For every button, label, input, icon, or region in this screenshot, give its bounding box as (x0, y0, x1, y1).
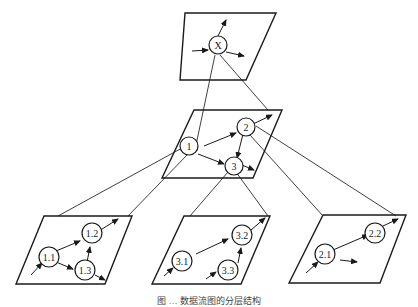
svg-text:1.3: 1.3 (79, 265, 92, 276)
node-1-2: 1.2 (82, 223, 102, 243)
node-3: 3 (225, 157, 243, 175)
node-1: 1 (180, 137, 198, 155)
node-1-3: 1.3 (75, 260, 95, 280)
svg-text:3.2: 3.2 (236, 230, 249, 241)
svg-text:2.2: 2.2 (369, 228, 382, 239)
svg-text:X: X (214, 40, 222, 51)
middle-level-plane: 1 2 3 (162, 110, 282, 178)
svg-text:3.1: 3.1 (176, 256, 189, 267)
node-3-1: 3.1 (172, 251, 192, 271)
node-2-1: 2.1 (315, 244, 335, 264)
node-x: X (209, 36, 227, 54)
subplane-2: 2.1 2.2 (289, 215, 406, 283)
node-2: 2 (237, 118, 255, 136)
subplane-3: 3.1 3.2 3.3 (152, 216, 270, 284)
top-level-plane: X (180, 13, 276, 80)
level-connectors (58, 55, 396, 216)
svg-text:3.3: 3.3 (222, 265, 235, 276)
svg-text:1.1: 1.1 (43, 252, 56, 263)
node-1-1: 1.1 (39, 247, 59, 267)
node-3-3: 3.3 (218, 260, 238, 280)
subplane-1: 1.1 1.2 1.3 (16, 216, 132, 284)
svg-text:2.1: 2.1 (319, 249, 332, 260)
node-3-2: 3.2 (232, 225, 252, 245)
svg-text:1.2: 1.2 (86, 228, 99, 239)
svg-text:1: 1 (187, 141, 192, 152)
svg-text:3: 3 (232, 161, 237, 172)
figure-caption: 图 … 数据流图的分层结构 (0, 294, 418, 307)
node-2-2: 2.2 (365, 223, 385, 243)
svg-text:2: 2 (244, 122, 249, 133)
